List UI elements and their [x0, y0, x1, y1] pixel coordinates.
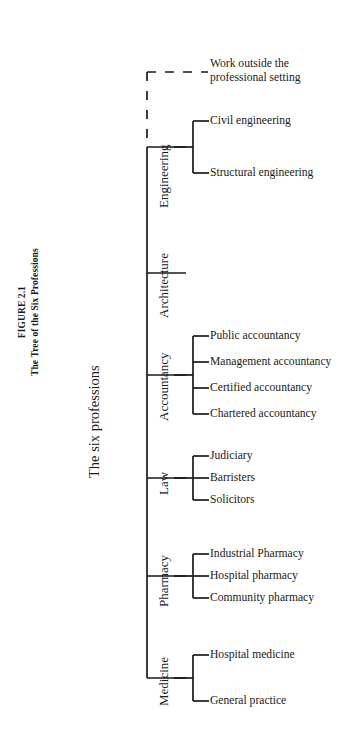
leaf-chartered-accountancy: Chartered accountancy — [210, 407, 317, 421]
branch-label-architecture: Architecture — [157, 253, 171, 318]
figure-tree-of-six-professions: FIGURE 2.1 The Tree of the Six Professio… — [0, 0, 355, 741]
leaf-hospital-medicine: Hospital medicine — [210, 648, 295, 662]
leaf-certified-accountancy: Certified accountancy — [210, 381, 312, 395]
leaf-management-accountancy: Management accountancy — [210, 355, 331, 369]
figure-caption: FIGURE 2.1 The Tree of the Six Professio… — [16, 248, 42, 376]
figure-caption-number: FIGURE 2.1 — [16, 248, 29, 376]
figure-caption-title: The Tree of the Six Professions — [29, 248, 42, 376]
tree-connector-lines — [0, 0, 355, 741]
branch-label-engineering: Engineering — [157, 144, 171, 208]
leaf-solicitors: Solicitors — [210, 493, 254, 507]
leaf-public-accountancy: Public accountancy — [210, 329, 300, 343]
work-outside-note: Work outside the professional setting — [210, 57, 300, 84]
branch-label-pharmacy: Pharmacy — [157, 555, 171, 607]
branch-label-accountancy: Accountancy — [157, 352, 171, 421]
work-outside-note-line2: professional setting — [210, 71, 300, 85]
leaf-structural-engineering: Structural engineering — [210, 166, 313, 180]
leaf-barristers: Barristers — [210, 471, 255, 485]
leaf-industrial-pharmacy: Industrial Pharmacy — [210, 547, 304, 561]
root-label: The six professions — [87, 365, 101, 478]
branch-label-medicine: Medicine — [157, 657, 171, 706]
leaf-hospital-pharmacy: Hospital pharmacy — [210, 569, 298, 583]
leaf-civil-engineering: Civil engineering — [210, 114, 291, 128]
leaf-general-practice: General practice — [210, 694, 286, 708]
leaf-judiciary: Judiciary — [210, 449, 253, 463]
work-outside-note-line1: Work outside the — [210, 57, 300, 71]
leaf-community-pharmacy: Community pharmacy — [210, 591, 314, 605]
branch-label-law: Law — [157, 472, 171, 495]
